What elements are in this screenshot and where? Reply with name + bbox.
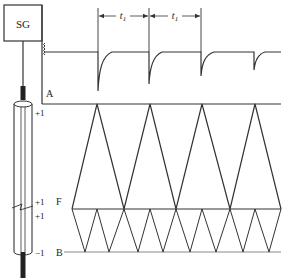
- label-A: A: [46, 88, 54, 99]
- period-dimension-1: t1: [99, 10, 148, 23]
- upper-reflection-zigzag: [72, 104, 281, 209]
- lower-reflection-zigzag: [72, 209, 281, 252]
- coupling-coil-icon: [44, 43, 46, 55]
- svg-text:t1: t1: [120, 10, 126, 23]
- coaxial-cable: [12, 101, 33, 278]
- cable-connector-top: [21, 86, 26, 100]
- label-plus-one-f-upper: +1: [35, 197, 45, 207]
- signal-generator-label: SG: [16, 18, 30, 30]
- pulse-waveform: [60, 52, 281, 91]
- period-dimension-2: t1: [150, 10, 200, 23]
- svg-text:t1: t1: [172, 10, 178, 23]
- label-minus-one-bottom: −1: [35, 248, 45, 258]
- cable-connector-bottom: [21, 252, 26, 278]
- reflection-diagram: SG t1 t1: [0, 0, 286, 279]
- label-plus-one-f-lower: +1: [35, 211, 45, 221]
- label-F: F: [56, 196, 62, 207]
- label-plus-one-top: +1: [35, 108, 45, 118]
- label-B: B: [56, 247, 63, 258]
